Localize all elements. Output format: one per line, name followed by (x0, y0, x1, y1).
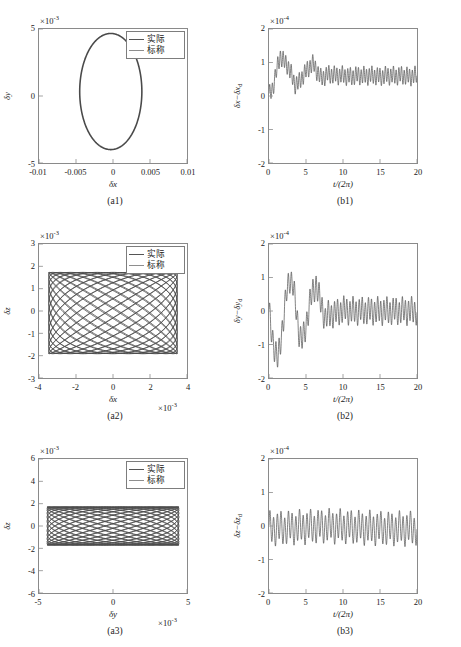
xtick-b1-0: 0 (266, 167, 270, 177)
ytick-b2-3: -1 (246, 340, 265, 350)
xtick-a1-4: 0.01 (181, 167, 196, 177)
xtick-b1-1: 5 (303, 167, 307, 177)
caption-b1: (b1) (230, 196, 460, 206)
ytick-b1-0: 2 (246, 23, 265, 33)
ytick-a3-5: -4 (16, 566, 35, 576)
ylabel-a1: δy (2, 92, 12, 100)
xtick-a1-1: -0.005 (65, 167, 87, 177)
subplot-b3: ×10-405101520210-1-2t/(2π)δz−δzd(b3) (230, 430, 460, 645)
subplot-a2: ×10-3×10-3-4-20243210-1-2-3δxδz实际标称(a2) (0, 215, 230, 430)
ytick-b2-1: 1 (246, 272, 265, 282)
ytick-b1-4: -2 (246, 159, 265, 169)
subplot-a3: ×10-3×10-3-5056420-2-4-6δyδz实际标称(a3) (0, 430, 230, 645)
ytick-b3-3: -1 (246, 555, 265, 565)
legend-item-actual[interactable]: 实际 (129, 464, 181, 475)
xtick-b1-2: 10 (339, 167, 348, 177)
xtick-a2-3: 2 (148, 382, 152, 392)
xtick-a3-0: -5 (34, 597, 41, 607)
xtick-a2-1: -2 (72, 382, 79, 392)
ytick-a3-4: -2 (16, 544, 35, 554)
legend-swatch-actual-icon (129, 39, 144, 40)
xtick-a1-3: 0.005 (141, 167, 160, 177)
legend-swatch-actual-icon (129, 469, 144, 470)
ytick-a3-6: -6 (16, 589, 35, 599)
ytick-a2-2: 1 (16, 283, 35, 293)
xtick-b3-2: 10 (339, 597, 348, 607)
ytick-b3-4: -2 (246, 589, 265, 599)
xlabel-b3: t/(2π) (333, 609, 353, 619)
xtick-b2-3: 15 (376, 382, 385, 392)
legend-item-nominal[interactable]: 标称 (129, 45, 181, 56)
ylabel-b2: δy−δyd (232, 299, 242, 324)
legend-a3[interactable]: 实际标称 (126, 461, 185, 489)
xtick-b1-3: 15 (376, 167, 385, 177)
y-multiplier-b1: ×10-4 (270, 14, 289, 26)
ylabel-a2: δz (2, 307, 12, 314)
xtick-b3-0: 0 (266, 597, 270, 607)
xtick-b3-1: 5 (303, 597, 307, 607)
legend-item-actual[interactable]: 实际 (129, 34, 181, 45)
xtick-b2-1: 5 (303, 382, 307, 392)
y-multiplier-b2: ×10-4 (270, 229, 289, 241)
ytick-b3-1: 1 (246, 487, 265, 497)
ytick-b1-1: 1 (246, 57, 265, 67)
subplot-b2: ×10-405101520210-1-2t/(2π)δy−δyd(b2) (230, 215, 460, 430)
ytick-a2-6: -3 (16, 374, 35, 384)
xlabel-a2: δx (109, 394, 117, 404)
ytick-a3-1: 4 (16, 476, 35, 486)
xlabel-b2: t/(2π) (333, 394, 353, 404)
subplot-a1: ×10-3-0.01-0.00500.0050.0150-5δxδy实际标称(a… (0, 0, 230, 215)
legend-swatch-nominal-icon (129, 480, 144, 481)
xtick-a2-4: 4 (186, 382, 190, 392)
xtick-b2-4: 20 (414, 382, 423, 392)
ytick-a2-1: 2 (16, 261, 35, 271)
xtick-b1-4: 20 (414, 167, 423, 177)
legend-item-nominal[interactable]: 标称 (129, 475, 181, 486)
legend-a1[interactable]: 实际标称 (126, 31, 185, 59)
legend-a2[interactable]: 实际标称 (126, 246, 185, 274)
ytick-a1-1: 0 (16, 91, 35, 101)
ytick-b3-0: 2 (246, 453, 265, 463)
xlabel-b1: t/(2π) (333, 179, 353, 189)
xtick-a3-2: 5 (186, 597, 190, 607)
ytick-a3-0: 6 (16, 453, 35, 463)
legend-swatch-nominal-icon (129, 265, 144, 266)
xlabel-a1: δx (109, 179, 117, 189)
legend-item-nominal[interactable]: 标称 (129, 260, 181, 271)
xlabel-a3: δy (109, 609, 117, 619)
ytick-b2-0: 2 (246, 238, 265, 248)
caption-b3: (b3) (230, 626, 460, 636)
caption-a2: (a2) (0, 411, 230, 421)
ytick-a2-5: -2 (16, 351, 35, 361)
ylabel-a3: δz (2, 522, 12, 529)
ytick-b1-2: 0 (246, 91, 265, 101)
xtick-b2-0: 0 (266, 382, 270, 392)
xtick-b2-2: 10 (339, 382, 348, 392)
xtick-b3-3: 15 (376, 597, 385, 607)
ytick-b1-3: -1 (246, 125, 265, 135)
ytick-a1-0: 5 (16, 23, 35, 33)
y-multiplier-a1: ×10-3 (40, 14, 59, 26)
xtick-b3-4: 20 (414, 597, 423, 607)
legend-item-actual[interactable]: 实际 (129, 249, 181, 260)
xtick-a3-1: 0 (111, 597, 115, 607)
legend-label-actual: 实际 (147, 249, 165, 260)
y-multiplier-a3: ×10-3 (40, 444, 59, 456)
legend-swatch-nominal-icon (129, 50, 144, 51)
legend-label-actual: 实际 (147, 34, 165, 45)
xtick-a2-2: 0 (111, 382, 115, 392)
ytick-b2-2: 0 (246, 306, 265, 316)
ylabel-b3: δz−δzd (232, 514, 242, 538)
legend-swatch-actual-icon (129, 254, 144, 255)
caption-a3: (a3) (0, 626, 230, 636)
y-multiplier-b3: ×10-4 (270, 444, 289, 456)
ytick-a3-3: 0 (16, 521, 35, 531)
ytick-b3-2: 0 (246, 521, 265, 531)
plot-area-b3 (268, 458, 418, 594)
caption-b2: (b2) (230, 411, 460, 421)
figure-root: ×10-3-0.01-0.00500.0050.0150-5δxδy实际标称(a… (0, 0, 461, 647)
ytick-a3-2: 2 (16, 498, 35, 508)
ytick-a2-0: 3 (16, 238, 35, 248)
legend-label-nominal: 标称 (147, 260, 165, 271)
legend-label-nominal: 标称 (147, 475, 165, 486)
